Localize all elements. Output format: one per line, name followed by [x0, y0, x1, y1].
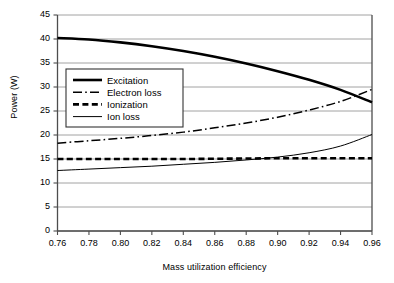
x-axis-label: Mass utilization efficiency	[57, 262, 372, 272]
y-tick-label: 20	[16, 129, 50, 139]
chart-figure: ExcitationElectron lossIonizationIon los…	[0, 0, 394, 283]
x-tick-label: 0.96	[352, 238, 392, 248]
legend-label-ionization: Ionization	[107, 99, 148, 110]
legend-label-electron-loss: Electron loss	[107, 87, 162, 98]
y-tick-label: 40	[16, 33, 50, 43]
y-tick-label: 25	[16, 105, 50, 115]
y-axis-label: Power (W)	[9, 57, 19, 137]
legend-label-excitation: Excitation	[107, 75, 148, 86]
y-tick-label: 35	[16, 57, 50, 67]
y-tick-label: 30	[16, 81, 50, 91]
y-tick-label: 15	[16, 153, 50, 163]
legend-label-ion-loss: Ion loss	[107, 111, 140, 122]
legend: ExcitationElectron lossIonizationIon los…	[66, 69, 183, 127]
y-tick-label: 5	[16, 201, 50, 211]
y-tick-label: 45	[16, 9, 50, 19]
y-tick-label: 0	[16, 225, 50, 235]
y-tick-label: 10	[16, 177, 50, 187]
